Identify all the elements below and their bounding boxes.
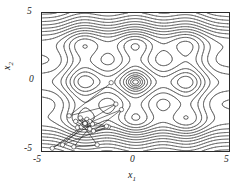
x-tick-label-left: -5 [33, 155, 41, 165]
y-axis-title: x2 [2, 62, 15, 70]
search-trajectory [42, 13, 229, 151]
contour-plot-figure: 5 0 -5 -5 0 5 x1 x2 [0, 0, 246, 187]
x-axis-title-subscript: 1 [132, 175, 136, 183]
x-tick-label-middle: 0 [130, 155, 135, 165]
plot-area [41, 12, 230, 152]
y-tick-label-middle: 0 [29, 75, 34, 85]
x-tick-label-right: 5 [224, 155, 229, 165]
y-tick-label-bottom: -5 [24, 144, 32, 154]
x-axis-title: x1 [128, 170, 136, 183]
y-tick-label-top: 5 [27, 7, 32, 17]
y-axis-title-text: x [1, 66, 12, 70]
y-axis-title-subscript: 2 [7, 62, 15, 66]
